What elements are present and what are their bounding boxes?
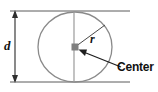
diagram-canvas [0, 0, 158, 92]
center-label: Center [117, 61, 154, 73]
circle-diagram-figure: d r Center [0, 0, 158, 92]
radius-label: r [90, 33, 95, 45]
diameter-label: d [4, 39, 11, 52]
center-pointer-line [81, 51, 121, 67]
center-point-marker [72, 44, 79, 51]
center-pointer-arrowhead-icon [79, 50, 88, 57]
